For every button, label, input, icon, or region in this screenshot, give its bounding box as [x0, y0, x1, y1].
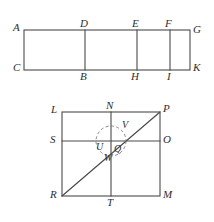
label-T: T: [107, 197, 113, 208]
label-I: I: [167, 71, 171, 82]
label-N: N: [106, 100, 113, 111]
label-Q: Q: [114, 144, 121, 154]
label-W: W: [104, 153, 112, 163]
label-M: M: [163, 189, 172, 200]
label-A: A: [13, 22, 20, 33]
top-rectangle-group: [24, 30, 190, 70]
label-V: V: [122, 120, 128, 130]
label-B: B: [80, 71, 87, 82]
label-F: F: [165, 18, 172, 29]
label-S: S: [50, 134, 56, 145]
label-O: O: [163, 134, 171, 145]
label-K: K: [193, 62, 200, 73]
label-C: C: [13, 62, 20, 73]
label-D: D: [80, 18, 88, 29]
label-E: E: [132, 18, 139, 29]
figure-canvas: [0, 0, 214, 222]
label-U: U: [96, 142, 103, 152]
label-G: G: [193, 24, 201, 35]
label-L: L: [51, 104, 57, 115]
geometry-figure: A D E F G C B H I K L N P S O R T M V U …: [0, 0, 214, 222]
label-H: H: [131, 71, 139, 82]
label-P: P: [163, 103, 170, 114]
rectangle-ACKG-outline: [24, 30, 190, 70]
label-R: R: [50, 189, 57, 200]
